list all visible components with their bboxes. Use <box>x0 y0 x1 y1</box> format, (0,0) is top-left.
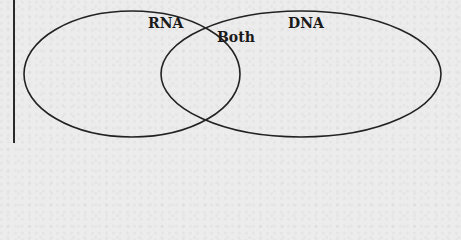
dna-label: DNA <box>288 16 324 30</box>
rna-label: RNA <box>148 16 183 30</box>
venn-svg <box>0 0 461 143</box>
rna-ellipse <box>24 11 240 137</box>
both-label: Both <box>217 30 255 44</box>
venn-diagram: RNA DNA Both <box>0 0 461 143</box>
